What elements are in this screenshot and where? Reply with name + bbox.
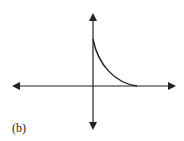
decay-curve — [93, 39, 137, 86]
figure-label: (b) — [12, 121, 26, 136]
graph — [0, 0, 184, 141]
